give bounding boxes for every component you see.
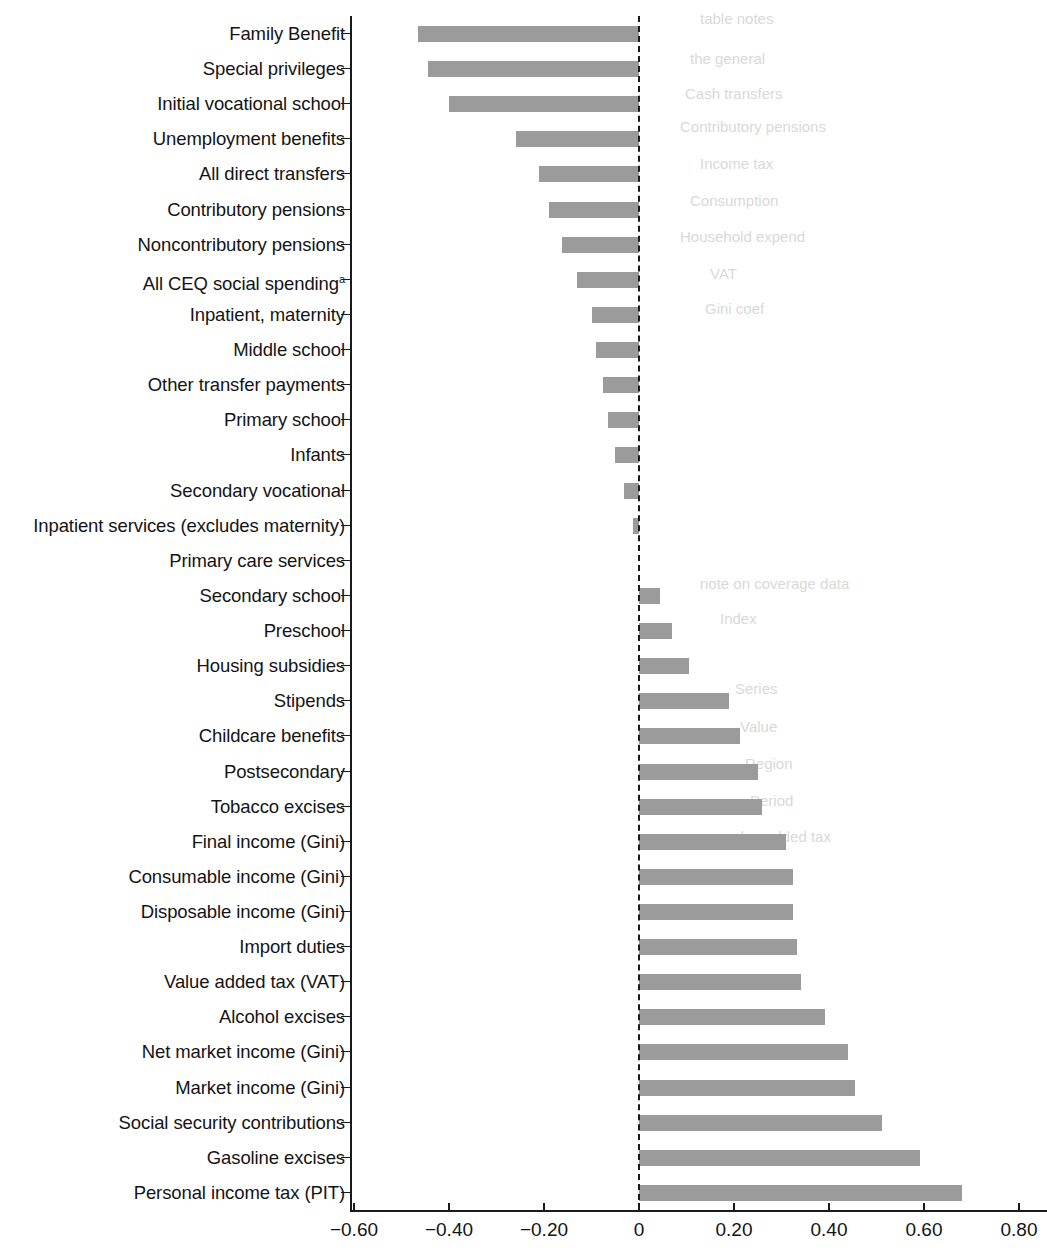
chart-row: Gasoline excises <box>0 1140 1047 1175</box>
bar <box>639 834 786 850</box>
category-label: Middle school <box>233 332 345 367</box>
chart-row: Alcohol excises <box>0 999 1047 1034</box>
y-axis-tick <box>341 279 350 280</box>
bar <box>639 1009 825 1025</box>
y-axis-tick <box>341 384 350 385</box>
chart-row: All CEQ social spendinga <box>0 262 1047 297</box>
zero-reference-line <box>638 16 640 1210</box>
chart-row: Preschool <box>0 613 1047 648</box>
category-label: Postsecondary <box>224 754 345 789</box>
category-label: Primary school <box>224 402 345 437</box>
bar <box>615 447 639 463</box>
y-axis-tick <box>341 1051 350 1052</box>
chart-row: Social security contributions <box>0 1105 1047 1140</box>
bar <box>639 799 762 815</box>
chart-row: Inpatient services (excludes maternity) <box>0 508 1047 543</box>
y-axis-tick <box>341 244 350 245</box>
bar <box>639 974 801 990</box>
bar <box>577 272 639 288</box>
y-axis-tick <box>341 349 350 350</box>
y-axis-tick <box>341 946 350 947</box>
category-label: All CEQ social spendinga <box>143 262 345 297</box>
y-axis-tick <box>341 209 350 210</box>
y-axis-tick <box>341 1192 350 1193</box>
bar <box>592 307 640 323</box>
category-label: Other transfer payments <box>148 367 345 402</box>
category-label: Contributory pensions <box>167 192 345 227</box>
bar <box>639 904 793 920</box>
bar <box>608 412 639 428</box>
y-axis-tick <box>341 806 350 807</box>
concentration-coefficient-bar-chart: table notes the general Cash transfers C… <box>0 0 1047 1257</box>
bar <box>539 166 639 182</box>
category-label: Primary care services <box>169 543 345 578</box>
bar <box>596 342 639 358</box>
y-axis-tick <box>341 173 350 174</box>
category-label: Disposable income (Gini) <box>141 894 345 929</box>
chart-row: All direct transfers <box>0 156 1047 191</box>
bar <box>639 588 660 604</box>
bar <box>639 693 729 709</box>
chart-row: Contributory pensions <box>0 192 1047 227</box>
y-axis-tick <box>341 665 350 666</box>
x-axis-tick <box>1018 1203 1020 1212</box>
x-axis-tick-label: −0.40 <box>425 1219 473 1241</box>
category-label: Market income (Gini) <box>175 1070 345 1105</box>
y-axis-tick <box>341 700 350 701</box>
y-axis-tick <box>341 490 350 491</box>
category-label: All direct transfers <box>199 156 345 191</box>
y-axis-tick <box>341 138 350 139</box>
y-axis-tick <box>341 33 350 34</box>
y-axis-tick <box>341 454 350 455</box>
x-axis-tick <box>353 1203 355 1212</box>
category-label: Unemployment benefits <box>153 121 345 156</box>
category-label: Social security contributions <box>119 1105 345 1140</box>
y-axis-tick <box>341 595 350 596</box>
chart-row: Initial vocational school <box>0 86 1047 121</box>
chart-row: Primary school <box>0 402 1047 437</box>
x-axis-tick-label: −0.60 <box>330 1219 378 1241</box>
category-label: Secondary school <box>200 578 345 613</box>
bar <box>603 377 639 393</box>
category-label: Stipends <box>274 683 345 718</box>
y-axis-tick <box>341 981 350 982</box>
bar <box>639 1080 855 1096</box>
bar <box>624 483 639 499</box>
chart-row: Net market income (Gini) <box>0 1034 1047 1069</box>
y-axis-tick <box>341 1157 350 1158</box>
bar <box>639 939 797 955</box>
category-label: Alcohol excises <box>219 999 345 1034</box>
y-axis-tick <box>341 876 350 877</box>
chart-row: Middle school <box>0 332 1047 367</box>
bar <box>639 869 793 885</box>
category-label: Housing subsidies <box>197 648 345 683</box>
chart-row: Final income (Gini) <box>0 824 1047 859</box>
chart-row: Market income (Gini) <box>0 1070 1047 1105</box>
chart-row: Stipends <box>0 683 1047 718</box>
bar <box>516 131 640 147</box>
chart-row: Childcare benefits <box>0 718 1047 753</box>
category-label: Inpatient, maternity <box>190 297 345 332</box>
y-axis-tick <box>341 911 350 912</box>
chart-row: Personal income tax (PIT) <box>0 1175 1047 1210</box>
x-axis-tick-label: 0 <box>634 1219 645 1241</box>
y-axis-tick <box>341 735 350 736</box>
bar <box>639 764 758 780</box>
y-axis-tick <box>341 314 350 315</box>
bar <box>639 1150 920 1166</box>
x-axis-tick <box>448 1203 450 1212</box>
x-axis-line <box>350 1210 1047 1212</box>
chart-row: Other transfer payments <box>0 367 1047 402</box>
category-label: Net market income (Gini) <box>142 1034 345 1069</box>
bar <box>428 61 639 77</box>
chart-row: Tobacco excises <box>0 789 1047 824</box>
category-label: Gasoline excises <box>207 1140 345 1175</box>
category-label: Secondary vocational <box>170 473 345 508</box>
x-axis-tick <box>638 1203 640 1212</box>
x-axis-tick <box>543 1203 545 1212</box>
category-label: Initial vocational school <box>157 86 345 121</box>
chart-row: Secondary school <box>0 578 1047 613</box>
y-axis-tick <box>341 841 350 842</box>
category-label: Import duties <box>239 929 345 964</box>
category-label: Preschool <box>264 613 345 648</box>
